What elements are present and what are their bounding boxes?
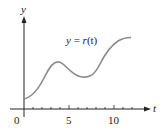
tick-label-10: 10 xyxy=(108,114,120,126)
origin-label: 0 xyxy=(14,114,20,126)
function-annotation: y = r(t) xyxy=(65,34,98,47)
y-axis-arrow-icon xyxy=(22,16,27,23)
x-axis-arrow-icon xyxy=(144,107,151,112)
chart-canvas: y t 0 5 10 y = r(t) xyxy=(0,0,163,134)
r-of-t-curve xyxy=(24,38,131,100)
y-axis-label: y xyxy=(20,3,26,15)
tick-label-5: 5 xyxy=(66,114,72,126)
x-axis-ticks xyxy=(33,105,132,109)
x-axis-label: t xyxy=(153,102,157,114)
